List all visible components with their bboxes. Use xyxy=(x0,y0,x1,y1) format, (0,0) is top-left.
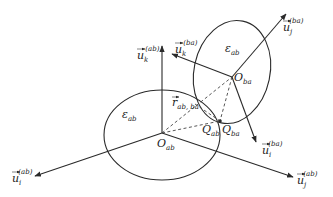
label-eps-ab: εab xyxy=(122,108,137,123)
label-u-k-ba: uk(ba) xyxy=(175,39,198,58)
dashed-oba-to-q xyxy=(220,77,232,121)
svg-text:uk(ab): uk(ab) xyxy=(137,45,160,64)
label-u-i-ab: ui(ab) xyxy=(12,168,33,187)
svg-text:ui(ba): ui(ba) xyxy=(262,140,283,159)
ellipse-ba xyxy=(184,13,280,131)
axis-u-j-ba xyxy=(232,14,286,77)
label-o-ba: Oba xyxy=(234,71,252,86)
label-eps-ba: εab xyxy=(225,42,240,57)
label-q-ba: Qba xyxy=(222,123,240,138)
axis-u-i-ab xyxy=(35,133,162,176)
label-u-j-ba: uj(ba) xyxy=(283,17,304,36)
axis-u-k-ba xyxy=(172,54,232,77)
label-u-j-ab: uj(ab) xyxy=(297,170,318,189)
label-q-ab: Qab xyxy=(202,123,220,138)
svg-text:uj(ab): uj(ab) xyxy=(297,170,318,189)
svg-text:uj(ba): uj(ba) xyxy=(283,17,304,36)
svg-text:uk(ba): uk(ba) xyxy=(175,39,198,58)
label-u-i-ba: ui(ba) xyxy=(262,140,283,159)
svg-text:ui(ab): ui(ab) xyxy=(12,168,33,187)
label-o-ab: Oab xyxy=(157,137,175,152)
ellipsoid-contact-diagram: εab εab Oab Oba Qab Qba rab, ba uk(ab) u… xyxy=(0,0,333,197)
label-u-k-ab: uk(ab) xyxy=(137,45,160,64)
